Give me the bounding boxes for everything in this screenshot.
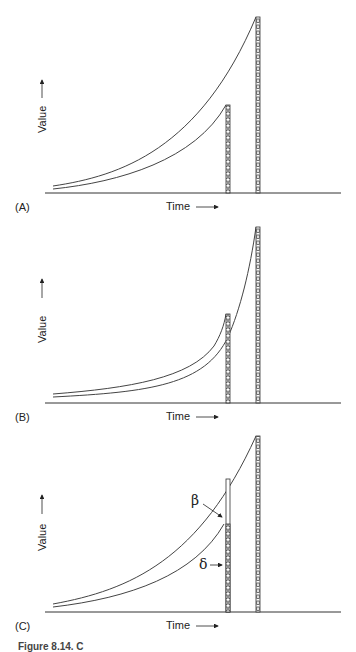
beta-arrow-icon bbox=[203, 504, 222, 517]
lower-start-curve bbox=[53, 227, 256, 397]
panel-b-y-axis-label: Value bbox=[36, 316, 48, 343]
upper-curve bbox=[53, 436, 256, 604]
short-bar bbox=[226, 105, 230, 193]
panel-c-x-axis-label: Time bbox=[166, 619, 190, 631]
lower-curve bbox=[53, 105, 226, 189]
tall-bar bbox=[256, 436, 260, 612]
panel-c-y-axis-label: Value bbox=[36, 524, 48, 551]
upper-curve bbox=[53, 17, 256, 186]
panel-a-x-axis-label: Time bbox=[166, 200, 190, 212]
beta-annotation: β bbox=[191, 492, 199, 508]
upper-start-curve bbox=[53, 314, 226, 394]
panel-c-label: (C) bbox=[15, 620, 30, 632]
panel-b-x-axis-label: Time bbox=[166, 410, 190, 422]
panel-c bbox=[42, 436, 341, 626]
figure-caption: Figure 8.14. C bbox=[18, 641, 84, 652]
tall-bar bbox=[256, 17, 260, 193]
panel-a-label: (A) bbox=[15, 201, 30, 213]
panel-b-label: (B) bbox=[15, 411, 30, 423]
delta-annotation: δ bbox=[199, 556, 207, 572]
panel-b bbox=[42, 227, 341, 417]
tall-bar bbox=[256, 227, 260, 403]
short-bar-hatched-portion bbox=[226, 524, 230, 612]
panel-a-y-axis-label: Value bbox=[36, 106, 48, 133]
panel-a bbox=[42, 17, 341, 207]
short-bar bbox=[226, 314, 230, 403]
